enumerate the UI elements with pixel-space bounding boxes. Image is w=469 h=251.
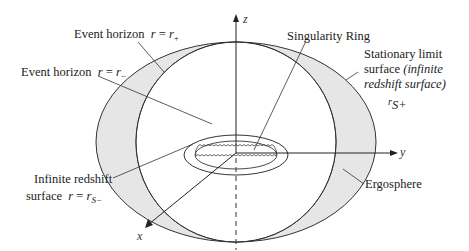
label-ergosphere: Ergosphere — [365, 177, 422, 191]
y-axis-arrowhead — [390, 150, 398, 156]
diagram-canvas — [0, 0, 469, 251]
x-axis-label: x — [137, 229, 142, 244]
z-axis-arrowhead — [233, 14, 239, 22]
leader-stationary-limit — [346, 72, 358, 80]
kerr-black-hole-diagram: z y x Event horizon r = r+ Event horizon… — [0, 0, 469, 251]
y-axis-label: y — [400, 145, 405, 160]
label-infinite-redshift-surface: Infinite redshift surface r = rS− — [33, 171, 112, 209]
z-axis-label: z — [243, 12, 248, 27]
label-event-horizon-plus: Event horizon r = r+ — [74, 27, 179, 45]
label-event-horizon-minus: Event horizon r = r− — [21, 65, 126, 83]
label-singularity-ring: Singularity Ring — [287, 29, 370, 43]
label-stationary-limit-surface: Stationary limit surface (infinite redsh… — [364, 47, 446, 113]
